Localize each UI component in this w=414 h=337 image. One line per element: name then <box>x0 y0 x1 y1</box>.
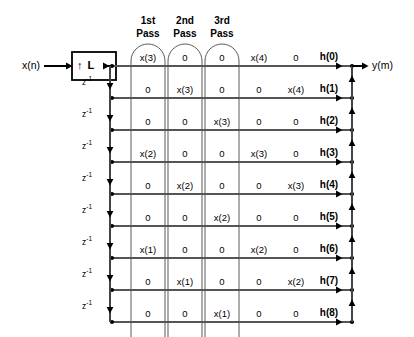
tap-value-r2-c2: x(3) <box>205 117 239 127</box>
tap-value-r5-c4: 0 <box>279 213 313 223</box>
tap-value-r1-c1: x(3) <box>168 85 202 95</box>
tap-value-r6-c0: x(1) <box>131 245 165 255</box>
coefficient-label-8: h(8) <box>310 308 348 318</box>
tap-value-r0-c0: x(3) <box>131 53 165 63</box>
input-label: x(n) <box>22 60 40 71</box>
tap-value-r7-c1: x(1) <box>168 277 202 287</box>
delay-label-7: z-1 <box>82 300 92 310</box>
delay-label-3: z-1 <box>82 172 92 182</box>
tap-value-r5-c3: 0 <box>242 213 276 223</box>
tap-value-r8-c3: 0 <box>242 309 276 319</box>
tap-value-r3-c1: 0 <box>168 149 202 159</box>
output-label: y(m) <box>372 60 393 71</box>
delay-label-1: z-1 <box>82 108 92 118</box>
delay-label-2: z-1 <box>82 140 92 150</box>
coefficient-label-7: h(7) <box>310 276 348 286</box>
tap-value-r4-c3: 0 <box>242 181 276 191</box>
coefficient-label-0: h(0) <box>310 52 348 62</box>
tap-value-r6-c3: x(2) <box>242 245 276 255</box>
tap-value-r0-c3: x(4) <box>242 53 276 63</box>
pass-header-1-line2: Pass <box>130 29 166 39</box>
tap-value-r3-c4: 0 <box>279 149 313 159</box>
tap-value-r3-c3: x(3) <box>242 149 276 159</box>
tap-value-r6-c4: 0 <box>279 245 313 255</box>
tap-value-r7-c4: x(2) <box>279 277 313 287</box>
tap-value-r5-c2: x(2) <box>205 213 239 223</box>
tap-value-r8-c0: 0 <box>131 309 165 319</box>
tap-value-r0-c1: 0 <box>168 53 202 63</box>
tap-value-r1-c3: 0 <box>242 85 276 95</box>
tap-value-r4-c4: x(3) <box>279 181 313 191</box>
tap-value-r7-c2: 0 <box>205 277 239 287</box>
pass-header-2-line1: 2nd <box>167 16 203 26</box>
tap-value-r2-c0: 0 <box>131 117 165 127</box>
tap-value-r0-c2: 0 <box>205 53 239 63</box>
tap-value-r1-c0: 0 <box>131 85 165 95</box>
coefficient-label-5: h(5) <box>310 212 348 222</box>
delay-label-4: z-1 <box>82 204 92 214</box>
tap-value-r2-c4: 0 <box>279 117 313 127</box>
tap-value-r0-c4: 0 <box>279 53 313 63</box>
coefficient-label-6: h(6) <box>310 244 348 254</box>
tap-value-r7-c3: 0 <box>242 277 276 287</box>
signal-flow-diagram: 1stPass2ndPass3rdPass x(3)00x(4)00x(3)00… <box>0 0 414 337</box>
coefficient-label-1: h(1) <box>310 84 348 94</box>
tap-value-r8-c2: x(1) <box>205 309 239 319</box>
pass-header-2-line2: Pass <box>167 29 203 39</box>
delay-label-0: z-1 <box>82 76 92 86</box>
coefficient-label-2: h(2) <box>310 116 348 126</box>
tap-value-r3-c0: x(2) <box>131 149 165 159</box>
tap-value-r1-c2: 0 <box>205 85 239 95</box>
tap-value-r6-c1: 0 <box>168 245 202 255</box>
tap-value-r7-c0: 0 <box>131 277 165 287</box>
delay-label-6: z-1 <box>82 268 92 278</box>
tap-value-r1-c4: x(4) <box>279 85 313 95</box>
tap-value-r4-c1: x(2) <box>168 181 202 191</box>
tap-value-r5-c1: 0 <box>168 213 202 223</box>
tap-value-r6-c2: 0 <box>205 245 239 255</box>
upsampler-label: ↑ L <box>77 60 95 71</box>
tap-value-r2-c3: 0 <box>242 117 276 127</box>
tap-value-r8-c1: 0 <box>168 309 202 319</box>
tap-value-r3-c2: 0 <box>205 149 239 159</box>
tap-value-r4-c2: 0 <box>205 181 239 191</box>
pass-header-3-line1: 3rd <box>204 16 240 26</box>
tap-value-r8-c4: 0 <box>279 309 313 319</box>
tap-value-r4-c0: 0 <box>131 181 165 191</box>
coefficient-label-4: h(4) <box>310 180 348 190</box>
tap-value-r2-c1: 0 <box>168 117 202 127</box>
tap-value-r5-c0: 0 <box>131 213 165 223</box>
coefficient-label-3: h(3) <box>310 148 348 158</box>
pass-header-1-line1: 1st <box>130 16 166 26</box>
delay-label-5: z-1 <box>82 236 92 246</box>
pass-header-3-line2: Pass <box>204 29 240 39</box>
